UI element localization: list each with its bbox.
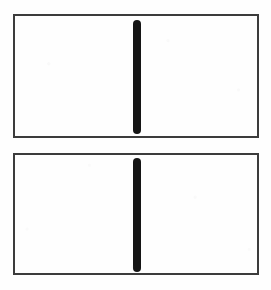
panel-top-frame [13,14,259,138]
vertical-line-top [133,20,141,134]
figure-canvas [0,0,271,290]
vertical-line-bottom [133,158,141,272]
panel-bottom-frame [13,153,259,275]
